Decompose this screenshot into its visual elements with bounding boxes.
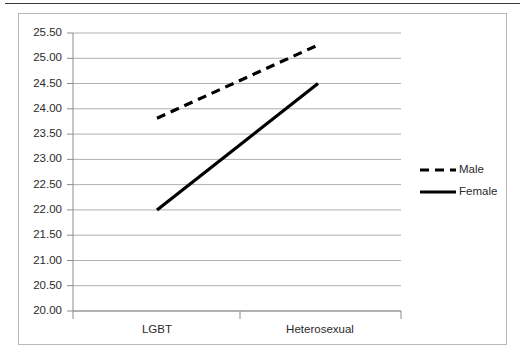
x-tick-label-heterosexual: Heterosexual: [286, 323, 354, 335]
y-tick-label-25-50: 25.50: [33, 26, 62, 38]
x-axis: [73, 311, 401, 319]
y-axis: [67, 33, 73, 311]
y-tick-label-23-50: 23.50: [33, 127, 62, 139]
legend-label-male: Male: [459, 163, 484, 175]
y-tick-label-24-50: 24.50: [33, 77, 62, 89]
x-tick-label-lgbt: LGBT: [142, 323, 172, 335]
chart-figure: 25.50 25.00 24.50 24.00 23.50 23.00 22.5…: [0, 0, 526, 361]
y-tick-label-20-00: 20.00: [33, 304, 62, 316]
y-tick-label-22-00: 22.00: [33, 203, 62, 215]
legend-label-female: Female: [459, 185, 497, 197]
y-axis-tick-labels: 25.50 25.00 24.50 24.00 23.50 23.00 22.5…: [33, 26, 62, 316]
series-female-segment: [157, 84, 318, 210]
series-male-line: [157, 45, 318, 118]
x-axis-tick-labels: LGBT Heterosexual: [142, 323, 354, 335]
y-tick-label-21-00: 21.00: [33, 254, 62, 266]
y-tick-label-25-00: 25.00: [33, 51, 62, 63]
series-male-segment: [157, 45, 318, 118]
line-chart-plot-area: 25.50 25.00 24.50 24.00 23.50 23.00 22.5…: [0, 0, 526, 361]
gridlines-group: [73, 33, 401, 311]
y-tick-label-23-00: 23.00: [33, 152, 62, 164]
series-female-line: [157, 84, 318, 210]
y-tick-label-22-50: 22.50: [33, 178, 62, 190]
y-tick-label-24-00: 24.00: [33, 102, 62, 114]
y-tick-label-20-50: 20.50: [33, 279, 62, 291]
chart-legend: Male Female: [420, 163, 497, 197]
y-tick-label-21-50: 21.50: [33, 228, 62, 240]
